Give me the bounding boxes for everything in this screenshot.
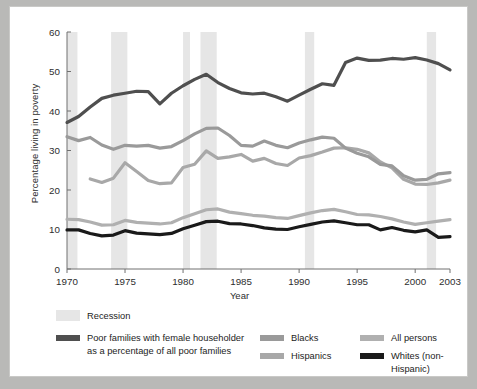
x-tick-label: 1970 — [56, 276, 78, 287]
y-tick-label: 50 — [49, 66, 60, 77]
y-tick-label: 40 — [49, 106, 60, 117]
legend-label-female-householder: Poor families with female householder as… — [87, 332, 251, 357]
chart-legend: Recession Poor families with female hous… — [10, 307, 469, 378]
recession-band — [183, 32, 190, 269]
legend-swatch-hispanics — [260, 353, 284, 359]
legend-label-all-persons: All persons — [391, 332, 437, 345]
series-line — [90, 148, 450, 185]
chart-svg: 0102030405060197019751980198519901995200… — [10, 7, 469, 287]
legend-label-recession: Recession — [87, 310, 130, 323]
y-tick-label: 0 — [55, 264, 61, 275]
legend-item-all-persons[interactable]: All persons — [360, 332, 437, 345]
legend-swatch-all-persons — [360, 335, 384, 341]
x-tick-label: 1985 — [230, 276, 252, 287]
recession-band — [305, 32, 314, 269]
x-tick-label: 1990 — [288, 276, 310, 287]
plot-area: 0102030405060197019751980198519901995200… — [10, 7, 469, 287]
y-tick-label: 30 — [49, 145, 60, 156]
legend-label-whites: Whites (non-Hispanic) — [391, 350, 469, 375]
legend-swatch-blacks — [260, 335, 284, 341]
legend-item-female-householder[interactable]: Poor families with female householder as… — [56, 332, 251, 357]
legend-item-blacks[interactable]: Blacks — [260, 332, 318, 345]
legend-item-hispanics[interactable]: Hispanics — [260, 350, 331, 363]
y-tick-label: 10 — [49, 224, 60, 235]
x-tick-label: 2000 — [404, 276, 426, 287]
x-tick-label: 1995 — [346, 276, 368, 287]
y-tick-label: 20 — [49, 185, 60, 196]
x-axis-title: Year — [10, 290, 469, 301]
figure-panel: 0102030405060197019751980198519901995200… — [9, 6, 468, 377]
y-tick-label: 60 — [49, 27, 60, 38]
x-tick-label: 2003 — [439, 276, 461, 287]
x-tick-label: 1975 — [114, 276, 136, 287]
legend-item-recession[interactable]: Recession — [56, 310, 130, 323]
legend-label-blacks: Blacks — [291, 332, 318, 345]
legend-swatch-female-householder — [56, 335, 80, 341]
legend-swatch-recession — [56, 310, 80, 321]
legend-label-hispanics: Hispanics — [291, 350, 331, 363]
legend-item-whites[interactable]: Whites (non-Hispanic) — [360, 350, 469, 375]
y-axis-title: Percentage living in poverty — [29, 59, 40, 229]
legend-swatch-whites — [360, 353, 384, 359]
x-tick-label: 1980 — [172, 276, 194, 287]
